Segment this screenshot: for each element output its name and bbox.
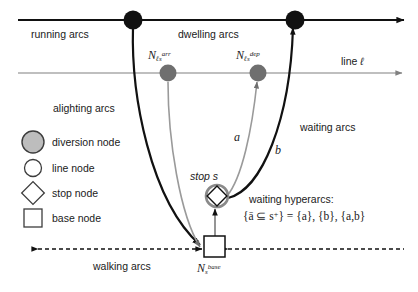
figure-canvas: running arcs dwelling arcs alighting arc…	[0, 0, 418, 292]
line-symbol: ℓ	[360, 55, 363, 67]
line-label-text: line	[341, 55, 357, 67]
arrival-node-label: Nℓsarr	[148, 49, 171, 63]
legend-label-line-node: line node	[52, 163, 95, 174]
waiting-hyperarcs-title: waiting hyperarcs:	[249, 194, 334, 205]
legend-stop-node-icon	[22, 182, 45, 205]
legend-label-diversion-node: diversion node	[52, 137, 120, 148]
base-node	[204, 236, 225, 257]
waiting-hyperarcs-formula: {ā ⊆ s+} = {a}, {b}, {a,b}	[243, 211, 365, 223]
hyperarc-branch-b-label: b	[275, 144, 281, 156]
walking-arcs-label: walking arcs	[93, 261, 151, 272]
legend-base-node-icon	[24, 209, 42, 227]
running-arcs-label: running arcs	[31, 29, 89, 40]
dwelling-arcs-label: dwelling arcs	[178, 29, 239, 40]
line-node-arrival-vehicle	[124, 11, 143, 30]
stop-node	[206, 185, 228, 207]
waiting-arcs-label: waiting arcs	[300, 122, 355, 133]
formula-right: } = {a}, {b}, {a,b}	[278, 210, 365, 222]
line-node-departure-vehicle	[286, 11, 305, 30]
formula-left: {ā ⊆ s	[243, 210, 274, 222]
diversion-node-arrival	[160, 65, 177, 82]
legend-diversion-node-icon	[22, 131, 44, 153]
legend-line-node-icon	[25, 160, 42, 177]
legend-symbols	[22, 131, 45, 227]
base-node-label: Nsbase	[197, 262, 221, 276]
branch-b-text: b	[275, 143, 281, 157]
base-node-base: N	[197, 261, 205, 275]
line-label: line ℓ	[341, 56, 364, 67]
base-node-sup: base	[208, 263, 221, 271]
diversion-node-departure	[250, 65, 267, 82]
alighting-arcs-label: alighting arcs	[53, 103, 115, 114]
departure-node-label: Nℓsdep	[236, 49, 260, 63]
stop-node-label: stop s	[190, 171, 218, 182]
arrival-node-sup: arr	[162, 50, 171, 58]
departure-node-sup: dep	[250, 50, 260, 58]
alighting-arc-gray	[168, 82, 200, 247]
hyperarc-branch-a-label: a	[234, 131, 240, 143]
arrival-node-base: N	[148, 48, 156, 62]
legend-label-stop-node: stop node	[52, 188, 98, 199]
branch-a-text: a	[234, 130, 240, 144]
departure-node-base: N	[236, 48, 244, 62]
legend-label-base-node: base node	[52, 213, 101, 224]
